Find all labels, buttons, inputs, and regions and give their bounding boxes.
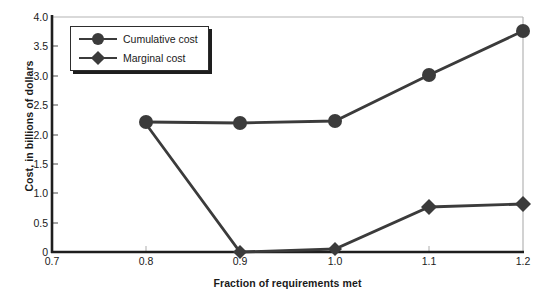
series-marginal-cost-line — [146, 124, 523, 252]
legend-marker-circle-icon — [79, 31, 117, 47]
chart-legend: Cumulative cost Marginal cost — [70, 26, 209, 71]
x-axis-title: Fraction of requirements met — [52, 277, 523, 289]
legend-label: Cumulative cost — [117, 33, 198, 45]
x-tick-label: 1.1 — [399, 256, 459, 267]
x-tick-label: 0.9 — [210, 256, 270, 267]
legend-item-cumulative-cost: Cumulative cost — [79, 30, 205, 48]
chart-figure: 4.0 3.5 3.0 2.5 2.0 1.5 1.0 0.5 0 Cost, … — [0, 0, 542, 298]
legend-marker-diamond-icon — [79, 50, 117, 66]
x-tick-label: 0.7 — [22, 256, 82, 267]
legend-item-marginal-cost: Marginal cost — [79, 49, 205, 67]
x-tick-label: 1.0 — [305, 256, 365, 267]
x-tick-label: 0.8 — [116, 256, 176, 267]
legend-label: Marginal cost — [117, 52, 185, 64]
x-tick-label: 1.2 — [493, 256, 542, 267]
